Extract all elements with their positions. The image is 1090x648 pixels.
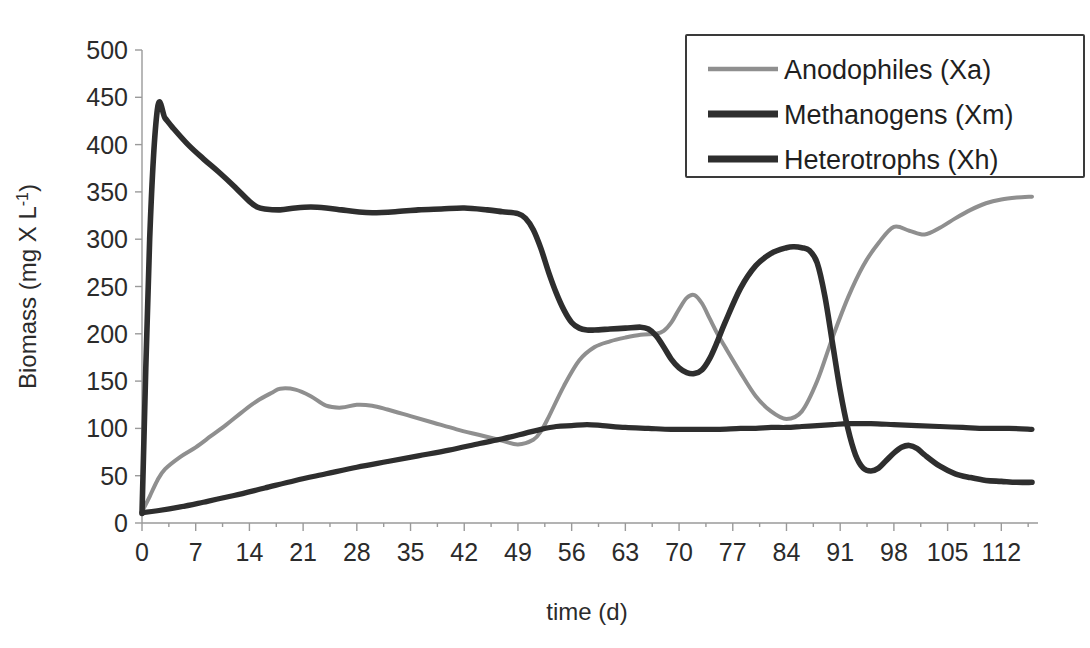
x-tick-label: 77 [719,538,747,566]
y-axis-title-close: ) [14,184,41,192]
y-tick-labels: 050100150200250300350400450500 [86,36,128,537]
x-tick-label: 49 [504,538,532,566]
x-tick-label: 112 [981,538,1021,566]
y-axis-title: Biomass (mg X L-1) [14,184,41,389]
legend-label-2: Heterotrophs (Xh) [784,145,999,175]
x-tick-label: 42 [450,538,478,566]
y-tick-label: 150 [86,367,128,395]
x-axis-title: time (d) [546,598,627,625]
y-tick-label: 350 [86,178,128,206]
x-tick-label: 14 [236,538,264,566]
x-tick-label: 7 [189,538,203,566]
x-tick-label: 105 [927,538,969,566]
y-tick-label: 100 [86,414,128,442]
x-tick-label: 84 [773,538,801,566]
biomass-line-chart: 050100150200250300350400450500 071421283… [0,0,1090,648]
x-tick-label: 70 [665,538,693,566]
chart-figure: 050100150200250300350400450500 071421283… [0,0,1090,648]
x-tick-label: 28 [343,538,371,566]
y-tick-label: 450 [86,83,128,111]
y-tick-label: 500 [86,36,128,64]
y-tick-label: 50 [100,462,128,490]
x-tick-label: 21 [289,538,317,566]
x-tick-label: 56 [558,538,586,566]
y-tick-label: 0 [114,509,128,537]
y-tick-label: 300 [86,225,128,253]
y-tick-label: 400 [86,131,128,159]
x-tick-label: 98 [880,538,908,566]
x-tick-label: 35 [397,538,425,566]
y-axis-title-superscript: -1 [14,192,31,206]
y-axis-title-main: Biomass (mg X L [14,206,41,389]
chart-legend: Anodophiles (Xa)Methanogens (Xm)Heterotr… [686,35,1084,177]
x-tick-label: 0 [135,538,149,566]
legend-label-1: Methanogens (Xm) [784,100,1014,130]
series-line-Xh [142,424,1032,513]
x-tick-label: 91 [826,538,854,566]
x-tick-labels: 0714212835424956637077849198105112 [135,538,1021,566]
series-line-Xa [142,197,1032,512]
legend-label-0: Anodophiles (Xa) [784,55,991,85]
y-tick-label: 250 [86,273,128,301]
x-tick-label: 63 [611,538,639,566]
y-tick-label: 200 [86,320,128,348]
